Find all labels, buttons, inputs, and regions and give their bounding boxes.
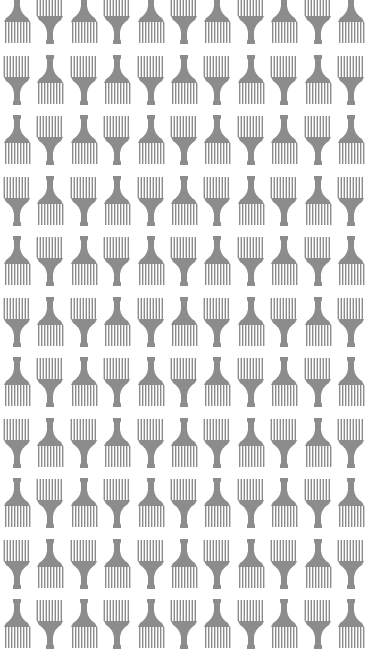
afro-pick-comb-icon xyxy=(269,418,299,468)
afro-pick-comb-icon xyxy=(2,115,32,165)
afro-pick-comb-icon xyxy=(336,115,366,165)
afro-pick-comb-icon xyxy=(35,357,65,407)
afro-pick-comb-icon xyxy=(236,418,266,468)
afro-pick-comb-icon xyxy=(202,297,232,347)
afro-pick-comb-icon xyxy=(269,539,299,589)
afro-pick-comb-icon xyxy=(2,478,32,528)
afro-pick-comb-icon xyxy=(202,236,232,286)
afro-pick-comb-icon xyxy=(35,115,65,165)
afro-pick-comb-icon xyxy=(69,176,99,226)
afro-pick-comb-icon xyxy=(336,297,366,347)
afro-pick-comb-icon xyxy=(102,357,132,407)
afro-pick-comb-icon xyxy=(269,357,299,407)
afro-pick-comb-icon xyxy=(136,297,166,347)
afro-pick-comb-icon xyxy=(202,418,232,468)
afro-pick-comb-icon xyxy=(136,478,166,528)
afro-pick-comb-icon xyxy=(269,0,299,44)
afro-pick-comb-icon xyxy=(136,539,166,589)
afro-pick-comb-icon xyxy=(336,599,366,649)
afro-pick-comb-icon xyxy=(269,176,299,226)
afro-pick-comb-icon xyxy=(336,478,366,528)
afro-pick-comb-icon xyxy=(336,55,366,105)
afro-pick-comb-icon xyxy=(35,176,65,226)
afro-pick-comb-icon xyxy=(35,0,65,44)
afro-pick-comb-icon xyxy=(2,176,32,226)
afro-pick-comb-icon xyxy=(102,0,132,44)
afro-pick-comb-icon xyxy=(169,55,199,105)
afro-pick-comb-icon xyxy=(236,539,266,589)
afro-pick-comb-icon xyxy=(202,176,232,226)
afro-pick-comb-icon xyxy=(69,236,99,286)
afro-pick-comb-icon xyxy=(102,297,132,347)
afro-pick-comb-icon xyxy=(336,357,366,407)
afro-pick-comb-icon xyxy=(169,115,199,165)
afro-pick-comb-icon xyxy=(169,599,199,649)
afro-pick-comb-icon xyxy=(102,115,132,165)
afro-pick-comb-icon xyxy=(169,539,199,589)
afro-pick-comb-icon xyxy=(102,539,132,589)
afro-pick-comb-icon xyxy=(236,599,266,649)
afro-pick-comb-icon xyxy=(303,176,333,226)
afro-pick-comb-icon xyxy=(336,418,366,468)
afro-pick-comb-icon xyxy=(169,357,199,407)
afro-pick-comb-icon xyxy=(136,599,166,649)
afro-pick-comb-icon xyxy=(336,176,366,226)
afro-pick-comb-icon xyxy=(303,0,333,44)
afro-pick-comb-icon xyxy=(136,418,166,468)
afro-pick-comb-icon xyxy=(69,0,99,44)
afro-pick-comb-icon xyxy=(35,236,65,286)
afro-pick-comb-icon xyxy=(69,599,99,649)
afro-pick-comb-icon xyxy=(303,115,333,165)
afro-pick-comb-icon xyxy=(2,418,32,468)
afro-pick-comb-icon xyxy=(136,236,166,286)
afro-pick-comb-icon xyxy=(236,55,266,105)
afro-pick-comb-icon xyxy=(35,297,65,347)
afro-pick-comb-icon xyxy=(269,599,299,649)
afro-pick-comb-icon xyxy=(69,55,99,105)
afro-pick-comb-icon xyxy=(303,478,333,528)
afro-pick-comb-icon xyxy=(2,55,32,105)
afro-pick-comb-icon xyxy=(303,297,333,347)
afro-pick-comb-icon xyxy=(136,176,166,226)
afro-pick-comb-icon xyxy=(303,55,333,105)
afro-pick-comb-icon xyxy=(2,236,32,286)
afro-pick-comb-icon xyxy=(2,297,32,347)
afro-pick-comb-icon xyxy=(102,478,132,528)
afro-pick-comb-icon xyxy=(336,539,366,589)
afro-pick-comb-icon xyxy=(303,236,333,286)
afro-pick-comb-icon xyxy=(69,297,99,347)
afro-pick-comb-icon xyxy=(202,55,232,105)
afro-pick-comb-icon xyxy=(169,0,199,44)
afro-pick-comb-icon xyxy=(236,357,266,407)
afro-pick-comb-icon xyxy=(35,418,65,468)
afro-pick-comb-icon xyxy=(35,599,65,649)
afro-pick-comb-icon xyxy=(303,539,333,589)
afro-pick-comb-icon xyxy=(35,478,65,528)
afro-pick-comb-icon xyxy=(236,236,266,286)
afro-pick-comb-icon xyxy=(2,0,32,44)
afro-pick-comb-icon xyxy=(2,539,32,589)
afro-pick-comb-icon xyxy=(69,539,99,589)
afro-pick-comb-icon xyxy=(136,55,166,105)
afro-pick-comb-icon xyxy=(69,115,99,165)
afro-pick-comb-icon xyxy=(102,176,132,226)
afro-pick-comb-icon xyxy=(269,115,299,165)
afro-pick-comb-icon xyxy=(303,357,333,407)
afro-pick-comb-icon xyxy=(136,0,166,44)
afro-pick-comb-icon xyxy=(236,297,266,347)
afro-pick-comb-icon xyxy=(202,478,232,528)
afro-pick-comb-icon xyxy=(169,176,199,226)
afro-pick-comb-icon xyxy=(102,236,132,286)
afro-pick-comb-icon xyxy=(35,539,65,589)
afro-pick-comb-icon xyxy=(102,418,132,468)
afro-pick-comb-icon xyxy=(2,599,32,649)
afro-pick-comb-icon xyxy=(269,236,299,286)
afro-pick-comb-icon xyxy=(169,478,199,528)
afro-pick-pattern xyxy=(0,0,373,656)
afro-pick-comb-icon xyxy=(69,357,99,407)
afro-pick-comb-icon xyxy=(69,418,99,468)
afro-pick-comb-icon xyxy=(35,55,65,105)
afro-pick-comb-icon xyxy=(236,478,266,528)
afro-pick-comb-icon xyxy=(2,357,32,407)
afro-pick-comb-icon xyxy=(169,297,199,347)
